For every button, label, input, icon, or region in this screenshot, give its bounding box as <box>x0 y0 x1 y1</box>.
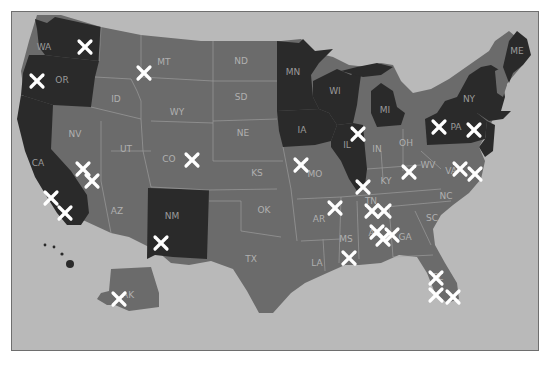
state-label-in: IN <box>372 144 381 154</box>
state-label-nm: NM <box>165 211 180 221</box>
state-label-or: OR <box>55 75 68 85</box>
state-label-oh: OH <box>399 138 413 148</box>
state-label-az: AZ <box>111 206 123 216</box>
state-label-ga: GA <box>398 232 412 242</box>
state-label-nd: ND <box>234 56 248 66</box>
state-label-wy: WY <box>170 107 185 117</box>
state-label-wv: WV <box>420 160 436 170</box>
state-label-id: ID <box>111 94 121 104</box>
state-label-mn: MN <box>286 67 301 77</box>
state-ia <box>277 109 337 147</box>
state-label-mt: MT <box>157 57 171 67</box>
state-label-la: LA <box>311 258 323 268</box>
us-map: WAORCAMTIDWYNVUTCOAZNMNDSDNEKSOKTXMNIAMO… <box>12 12 539 351</box>
state-label-ny: NY <box>463 94 476 104</box>
state-label-co: CO <box>162 154 175 164</box>
state-label-pa: PA <box>450 122 462 132</box>
state-label-wi: WI <box>329 86 341 96</box>
state-label-nc: NC <box>439 191 452 201</box>
state-label-tx: TX <box>244 254 257 264</box>
state-label-ms: MS <box>339 234 353 244</box>
state-label-ar: AR <box>313 214 325 224</box>
state-label-mi: MI <box>380 105 390 115</box>
state-label-wa: WA <box>37 42 52 52</box>
state-label-ok: OK <box>258 205 272 215</box>
state-label-ky: KY <box>380 176 392 186</box>
state-label-ia: IA <box>298 125 308 135</box>
state-label-mo: MO <box>308 169 323 179</box>
state-label-il: IL <box>343 140 351 150</box>
state-label-ks: KS <box>251 168 263 178</box>
state-label-sd: SD <box>235 92 248 102</box>
state-label-nv: NV <box>69 129 83 139</box>
map-frame: WAORCAMTIDWYNVUTCOAZNMNDSDNEKSOKTXMNIAMO… <box>11 11 539 351</box>
state-label-ne: NE <box>237 128 250 138</box>
state-hi <box>44 244 74 268</box>
state-label-sc: SC <box>426 213 438 223</box>
state-label-ca: CA <box>32 158 45 168</box>
state-label-ut: UT <box>120 144 133 154</box>
state-label-me: ME <box>510 46 524 56</box>
